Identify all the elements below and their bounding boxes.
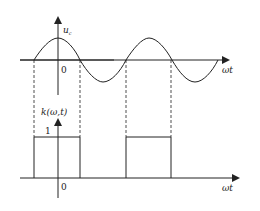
bottom-origin-label: 0: [61, 182, 67, 192]
dashed-guides: [34, 60, 171, 137]
pulse-1: [34, 137, 80, 178]
bottom-x-label: ωt: [222, 183, 233, 193]
top-y-label: uc: [63, 25, 72, 36]
bottom-y-label: k(ω,t): [41, 107, 68, 117]
top-plot: uc 0 ωt: [20, 18, 233, 95]
top-x-label: ωt: [222, 65, 233, 75]
top-origin-label: 0: [61, 65, 67, 75]
switching-function-diagram: uc 0 ωt k(ω,t) 1 0 ωt: [0, 0, 260, 211]
level-one-label: 1: [45, 126, 51, 136]
bottom-plot: k(ω,t) 1 0 ωt: [20, 107, 238, 198]
pulse-2: [126, 137, 171, 178]
